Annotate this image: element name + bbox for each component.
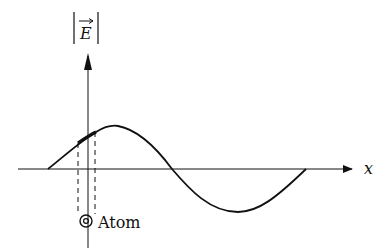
x-axis-label: x — [364, 159, 373, 178]
y-axis-label: E — [79, 24, 92, 43]
atom-icon — [80, 215, 92, 227]
y-axis-label-group: E — [74, 12, 98, 44]
atom-label: Atom — [97, 213, 141, 232]
highlighted-segment — [78, 132, 96, 143]
y-axis-arrowhead — [84, 53, 92, 70]
wave-diagram: Atom x E — [0, 0, 392, 251]
